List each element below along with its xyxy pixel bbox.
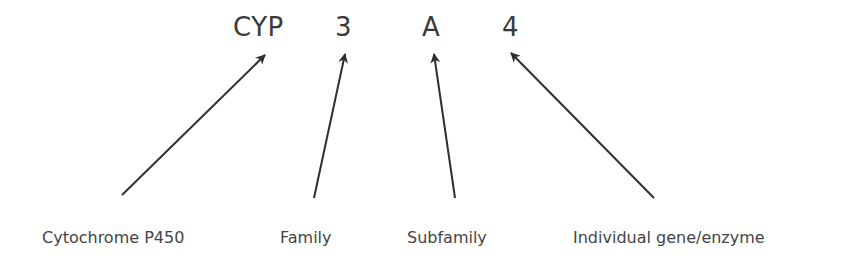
cytochrome-arrow xyxy=(122,55,265,195)
label-family: Family xyxy=(280,228,331,247)
label-subfamily: Subfamily xyxy=(407,228,487,247)
individual-arrow xyxy=(511,53,654,198)
subfamily-arrow xyxy=(434,54,455,198)
label-individual-gene: Individual gene/enzyme xyxy=(573,228,765,247)
label-cytochrome-p450: Cytochrome P450 xyxy=(42,228,184,247)
family-arrow xyxy=(314,54,345,198)
arrows-layer xyxy=(0,0,855,265)
